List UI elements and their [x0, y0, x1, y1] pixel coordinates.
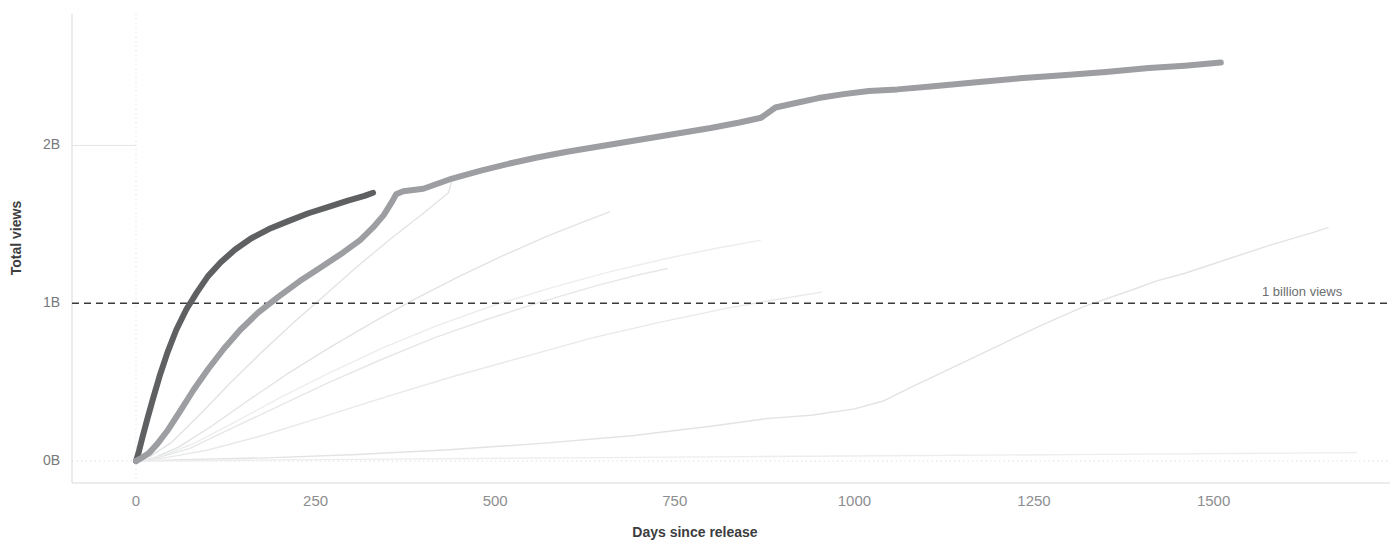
- series-faint-b: [136, 212, 610, 461]
- chart-container: Total views Days since release 0B1B2B 02…: [0, 0, 1390, 555]
- axes-layer: [72, 14, 1390, 483]
- background-series-layer: [136, 180, 1357, 461]
- y-tick-label-2B: 2B: [4, 136, 60, 152]
- series-faint-e: [136, 240, 761, 461]
- y-tick-label-1B: 1B: [4, 294, 60, 310]
- x-tick-label-1000: 1000: [814, 492, 894, 509]
- x-tick-label-250: 250: [276, 492, 356, 509]
- y-axis-title: Total views: [8, 178, 24, 298]
- x-axis-title: Days since release: [0, 524, 1390, 540]
- x-tick-label-0: 0: [96, 492, 176, 509]
- annotation-1-billion-views: 1 billion views: [1262, 284, 1342, 299]
- highlighted-series-layer: [136, 63, 1221, 461]
- x-tick-label-750: 750: [635, 492, 715, 509]
- x-tick-label-1250: 1250: [994, 492, 1074, 509]
- series-highlighted-mid-longrun: [136, 63, 1221, 461]
- series-faint-d: [136, 292, 822, 461]
- series-faint-slow-sleeper: [136, 227, 1329, 461]
- x-tick-label-500: 500: [455, 492, 535, 509]
- x-tick-label-1500: 1500: [1174, 492, 1254, 509]
- chart-plot-area: [0, 0, 1390, 555]
- series-faint-flat-bottom: [136, 453, 1357, 461]
- y-tick-label-0B: 0B: [4, 452, 60, 468]
